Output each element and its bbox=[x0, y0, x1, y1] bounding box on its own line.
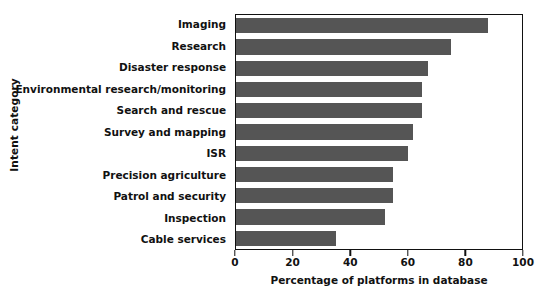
category-label-precision-agriculture: Precision agriculture bbox=[30, 164, 231, 185]
category-label-search-and-rescue: Search and rescue bbox=[30, 100, 231, 121]
bar-slot bbox=[236, 36, 522, 57]
bar-isr bbox=[236, 146, 408, 161]
bar-precision-agriculture bbox=[236, 167, 393, 182]
bar-slot bbox=[236, 15, 522, 36]
bar-slot bbox=[236, 228, 522, 249]
x-tick-label: 60 bbox=[400, 256, 415, 268]
bar-series bbox=[236, 15, 522, 249]
x-tick-label: 40 bbox=[343, 256, 358, 268]
bar-environmental-research-monitoring bbox=[236, 82, 422, 97]
category-label-patrol-and-security: Patrol and security bbox=[30, 186, 231, 207]
bar-search-and-rescue bbox=[236, 103, 422, 118]
y-axis-title: Intent category bbox=[0, 0, 28, 250]
bar-slot bbox=[236, 79, 522, 100]
x-tick-label: 80 bbox=[458, 256, 473, 268]
category-label-research: Research bbox=[30, 35, 231, 56]
category-label-inspection: Inspection bbox=[30, 207, 231, 228]
bar-slot bbox=[236, 100, 522, 121]
bar-inspection bbox=[236, 209, 385, 224]
x-tick-label: 0 bbox=[231, 256, 238, 268]
category-label-environmental-research-monitoring: Environmental research/monitoring bbox=[30, 78, 231, 99]
category-label-cable-services: Cable services bbox=[30, 229, 231, 250]
bar-slot bbox=[236, 206, 522, 227]
x-axis-tick-labels: 020406080100 bbox=[235, 256, 523, 272]
category-label-isr: ISR bbox=[30, 143, 231, 164]
bar-slot bbox=[236, 164, 522, 185]
bar-cable-services bbox=[236, 231, 336, 246]
bar-research bbox=[236, 39, 451, 54]
bar-disaster-response bbox=[236, 61, 428, 76]
bar-slot bbox=[236, 121, 522, 142]
x-tick-label: 100 bbox=[512, 256, 534, 268]
category-label-disaster-response: Disaster response bbox=[30, 57, 231, 78]
bar-survey-and-mapping bbox=[236, 124, 413, 139]
bar-imaging bbox=[236, 18, 488, 33]
category-label-survey-and-mapping: Survey and mapping bbox=[30, 121, 231, 142]
bar-slot bbox=[236, 143, 522, 164]
x-tick-label: 20 bbox=[285, 256, 300, 268]
bar-slot bbox=[236, 185, 522, 206]
x-axis-title: Percentage of platforms in database bbox=[235, 274, 523, 286]
category-axis-labels: Imaging Research Disaster response Envir… bbox=[30, 14, 231, 250]
category-label-imaging: Imaging bbox=[30, 14, 231, 35]
bar-patrol-and-security bbox=[236, 188, 393, 203]
bar-chart-figure: Intent category Imaging Research Disaste… bbox=[0, 0, 559, 298]
plot-area bbox=[235, 14, 523, 250]
bar-slot bbox=[236, 58, 522, 79]
